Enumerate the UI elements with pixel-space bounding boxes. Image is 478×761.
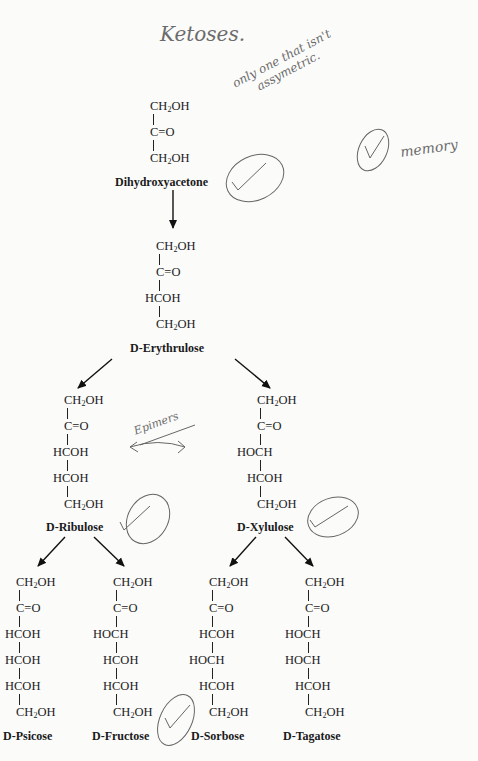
ch2oh: CH2OH <box>113 576 152 589</box>
ch2oh: CH2OH <box>156 318 195 331</box>
label-d-fructose: D-Fructose <box>92 729 149 744</box>
ch2oh: CH2OH <box>156 240 195 253</box>
label-d-tagatose: D-Tagatose <box>283 729 341 744</box>
ch2oh: CH2OH <box>64 498 103 511</box>
carbonyl: C=O <box>64 420 88 433</box>
arrow-to-sorbose <box>230 537 256 566</box>
hcoh: HCOH <box>53 472 88 485</box>
ch2oh: CH2OH <box>257 394 296 407</box>
diagram-lines <box>0 0 478 761</box>
hoch: HOCH <box>93 628 128 641</box>
label-d-sorbose: D-Sorbose <box>191 729 244 744</box>
ch2oh: CH2OH <box>150 152 189 165</box>
ch2oh: CH2OH <box>305 706 344 719</box>
arrow-to-xylulose <box>235 359 270 388</box>
ch2oh: CH2OH <box>257 498 296 511</box>
ch2oh: CH2OH <box>209 706 248 719</box>
carbonyl: C=O <box>16 602 40 615</box>
hoch: HOCH <box>285 628 320 641</box>
ch2oh: CH2OH <box>113 706 152 719</box>
hcoh: HCOH <box>103 654 138 667</box>
carbonyl: C=O <box>113 602 137 615</box>
hoch: HOCH <box>237 446 272 459</box>
hcoh: HCOH <box>5 680 40 693</box>
arrow-to-psicose <box>38 537 65 566</box>
ch2oh: CH2OH <box>150 100 189 113</box>
hcoh: HCOH <box>199 680 234 693</box>
ch2oh: CH2OH <box>64 394 103 407</box>
arrow-to-ribulose <box>78 359 112 388</box>
label-d-ribulose: D-Ribulose <box>46 520 103 535</box>
hcoh: HCOH <box>53 446 88 459</box>
arrow-to-fructose <box>94 537 124 566</box>
carbonyl: C=O <box>209 602 233 615</box>
hcoh: HCOH <box>199 628 234 641</box>
hoch: HOCH <box>189 654 224 667</box>
ch2oh: CH2OH <box>16 706 55 719</box>
ch2oh: CH2OH <box>305 576 344 589</box>
arrow-to-tagatose <box>285 537 313 566</box>
hcoh: HCOH <box>5 628 40 641</box>
carbonyl: C=O <box>257 420 281 433</box>
carbonyl: C=O <box>150 126 174 139</box>
label-d-xylulose: D-Xylulose <box>237 520 294 535</box>
hcoh: HCOH <box>145 292 180 305</box>
label-dihydroxyacetone: Dihydroxyacetone <box>115 175 208 190</box>
carbonyl: C=O <box>305 602 329 615</box>
ch2oh: CH2OH <box>16 576 55 589</box>
ch2oh: CH2OH <box>209 576 248 589</box>
hcoh: HCOH <box>295 680 330 693</box>
label-d-psicose: D-Psicose <box>3 729 52 744</box>
carbonyl: C=O <box>156 266 180 279</box>
hcoh: HCOH <box>5 654 40 667</box>
label-d-erythrulose: D-Erythrulose <box>130 341 204 356</box>
hcoh: HCOH <box>247 472 282 485</box>
hoch: HOCH <box>285 654 320 667</box>
hcoh: HCOH <box>103 680 138 693</box>
